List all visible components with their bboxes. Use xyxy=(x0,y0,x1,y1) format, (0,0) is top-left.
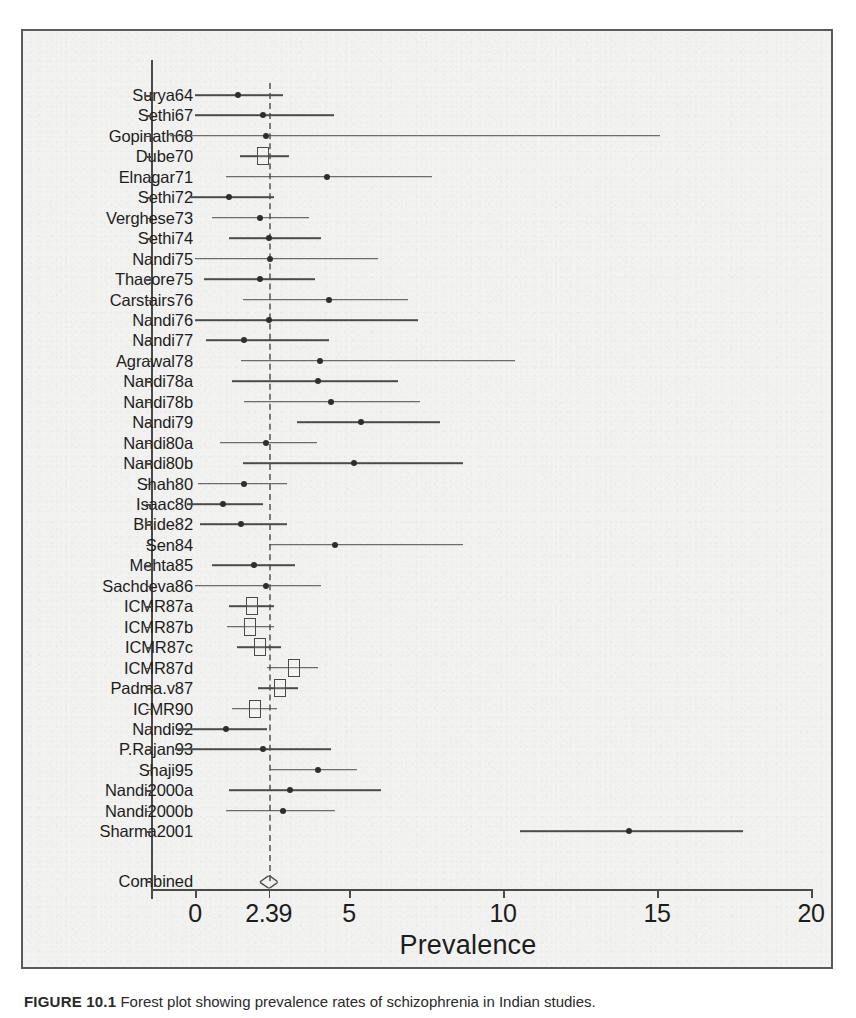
y-axis-tick xyxy=(146,606,152,608)
y-axis-tick xyxy=(146,790,152,792)
pooled-label: Combined xyxy=(119,872,193,890)
confidence-interval-line xyxy=(195,258,378,260)
point-estimate-marker xyxy=(266,317,272,323)
confidence-interval-line xyxy=(170,135,660,137)
study-label-nandi75: Nandi75 xyxy=(132,250,193,268)
point-estimate-marker xyxy=(257,215,263,221)
y-axis-tick xyxy=(146,545,152,547)
y-axis-tick xyxy=(146,115,152,117)
confidence-interval-line xyxy=(195,585,321,587)
point-estimate-marker xyxy=(223,726,229,732)
point-estimate-marker xyxy=(241,481,247,487)
x-axis-tick xyxy=(349,889,351,898)
point-estimate-marker xyxy=(235,92,241,98)
figure-caption-label: FIGURE 10.1 xyxy=(24,993,116,1010)
confidence-interval-line xyxy=(229,790,381,792)
y-axis-tick xyxy=(146,259,152,261)
y-axis-tick xyxy=(146,627,152,629)
study-label-dube70: Dube70 xyxy=(136,147,193,165)
confidence-interval-line xyxy=(195,319,418,321)
y-axis-tick xyxy=(146,709,152,711)
study-label-mehta85: Mehta85 xyxy=(129,556,193,574)
confidence-interval-line xyxy=(175,749,331,751)
y-axis-tick xyxy=(146,668,152,670)
study-label-elnagar71: Elnagar71 xyxy=(119,168,193,186)
y-axis-tick xyxy=(146,770,152,772)
y-axis-tick xyxy=(146,524,152,526)
study-label-agrawal78: Agrawal78 xyxy=(116,352,193,370)
y-axis-tick xyxy=(146,238,152,240)
x-axis-title: Prevalence xyxy=(0,930,856,960)
x-axis-tick-label: 5 xyxy=(342,899,355,927)
point-estimate-marker xyxy=(220,501,226,507)
point-estimate-box xyxy=(249,700,261,718)
point-estimate-marker xyxy=(332,542,338,548)
y-axis-tick xyxy=(146,831,152,833)
study-label-bhide82: Bhide82 xyxy=(133,515,193,533)
point-estimate-box xyxy=(246,597,258,615)
x-axis-tick-label: 10 xyxy=(490,899,517,927)
y-axis-tick xyxy=(146,381,152,383)
y-axis-tick xyxy=(146,218,152,220)
study-label-icmr90: ICMR90 xyxy=(133,700,193,718)
confidence-interval-line xyxy=(241,360,515,362)
x-axis-tick-label: 15 xyxy=(644,899,671,927)
y-axis-tick xyxy=(146,484,152,486)
point-estimate-marker xyxy=(263,583,269,589)
y-axis-tick xyxy=(146,729,152,731)
x-axis-tick-label: 2.39 xyxy=(245,899,292,927)
x-axis-tick xyxy=(657,889,659,898)
study-label-nandi78a: Nandi78a xyxy=(123,372,193,390)
x-axis-tick xyxy=(269,889,271,898)
point-estimate-marker xyxy=(280,808,286,814)
point-estimate-marker xyxy=(328,399,334,405)
point-estimate-box xyxy=(244,618,256,636)
point-estimate-marker xyxy=(260,746,266,752)
point-estimate-marker xyxy=(358,419,364,425)
study-label-thacore75: Thacore75 xyxy=(115,270,193,288)
study-label-nandi80b: Nandi80b xyxy=(123,454,193,472)
point-estimate-marker xyxy=(326,297,332,303)
y-axis-tick xyxy=(146,688,152,690)
point-estimate-marker xyxy=(626,828,632,834)
study-label-nandi80a: Nandi80a xyxy=(123,434,193,452)
y-axis-tick xyxy=(146,156,152,158)
study-label-surya64: Surya64 xyxy=(132,86,193,104)
point-estimate-marker xyxy=(241,337,247,343)
point-estimate-marker xyxy=(267,256,273,262)
y-axis-tick xyxy=(146,422,152,424)
point-estimate-box xyxy=(257,147,269,165)
y-axis-tick xyxy=(146,565,152,567)
study-label-nandi77: Nandi77 xyxy=(132,331,193,349)
confidence-interval-line xyxy=(229,237,321,239)
y-axis-tick xyxy=(146,177,152,179)
y-axis-tick xyxy=(146,586,152,588)
x-axis-tick xyxy=(195,889,197,898)
y-axis-tick xyxy=(146,95,152,97)
point-estimate-marker xyxy=(251,562,257,568)
point-estimate-marker xyxy=(315,378,321,384)
forest-plot: Surya64Sethi67Gopinath68Dube70Elnagar71S… xyxy=(0,0,856,1018)
y-axis-tick xyxy=(146,402,152,404)
y-axis-tick xyxy=(146,504,152,506)
point-estimate-marker xyxy=(260,112,266,118)
study-label-icmr87b: ICMR87b xyxy=(124,618,193,636)
y-axis-tick-pooled xyxy=(146,881,152,883)
y-axis-tick xyxy=(146,320,152,322)
point-estimate-box xyxy=(288,659,300,677)
point-estimate-marker xyxy=(238,521,244,527)
point-estimate-marker xyxy=(263,440,269,446)
study-label-sen84: Sen84 xyxy=(146,536,193,554)
y-axis-tick xyxy=(146,361,152,363)
pooled-effect-diamond xyxy=(259,875,277,888)
y-axis-tick xyxy=(146,811,152,813)
point-estimate-box xyxy=(254,638,266,656)
y-axis-tick xyxy=(146,136,152,138)
study-label-nandi76: Nandi76 xyxy=(132,311,193,329)
point-estimate-marker xyxy=(263,133,269,139)
study-label-icmr87a: ICMR87a xyxy=(124,597,193,615)
point-estimate-marker xyxy=(287,787,293,793)
point-estimate-marker xyxy=(351,460,357,466)
study-label-icmr87c: ICMR87c xyxy=(125,638,193,656)
study-label-icmr87d: ICMR87d xyxy=(124,659,193,677)
